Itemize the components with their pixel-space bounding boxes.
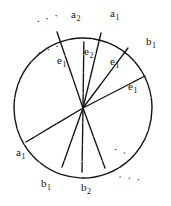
label-a2-top: a2 (71, 9, 80, 20)
label-subscript: 2 (87, 187, 91, 196)
label-subscript: 1 (47, 183, 51, 192)
label-b2-bottom: b2 (81, 182, 91, 193)
chord-to-bottom (82, 108, 83, 172)
chord-to-bottom-left (62, 108, 83, 167)
label-e2-inner-top: e2 (84, 46, 93, 57)
label-e1-inner-upper-right: e1 (110, 56, 119, 67)
label-a1-topright: a1 (110, 8, 119, 19)
circle-sector-diagram: a2a1b1e2e1e1e1a1b1b2 · · ·· · ·· · ·· · … (0, 0, 171, 206)
label-b1-right: b1 (146, 36, 156, 47)
label-subscript: 1 (133, 86, 137, 95)
label-subscript: 1 (115, 61, 119, 70)
label-e1-inner-upper-left: e1 (57, 55, 66, 66)
label-subscript: 2 (89, 51, 93, 60)
chord-to-top-left (57, 32, 83, 108)
chord-to-top (83, 31, 84, 108)
chord-to-bottom-right (83, 108, 105, 168)
label-b1-bottom: b1 (41, 178, 51, 189)
label-subscript: 1 (62, 60, 66, 69)
label-subscript: 1 (115, 13, 119, 22)
label-subscript: 2 (76, 14, 80, 23)
label-base: b (81, 181, 87, 193)
label-e1-inner-right: e1 (128, 81, 137, 92)
chord-to-lower-left (26, 108, 83, 142)
label-subscript: 1 (152, 41, 156, 50)
diagram-canvas (0, 0, 171, 206)
label-a1-left: a1 (16, 147, 25, 158)
label-base: b (41, 177, 47, 189)
label-base: b (146, 35, 152, 47)
label-subscript: 1 (21, 152, 25, 161)
